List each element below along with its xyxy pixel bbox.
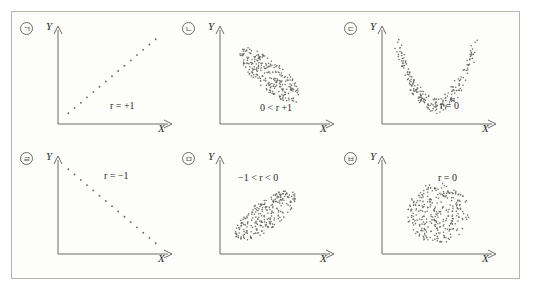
figure-frame: ㄱ Y X r = +1 ㄴ Y X 0 < r +1	[11, 11, 520, 279]
panel-4-x-label: X	[158, 252, 165, 264]
panel-1-axes	[54, 26, 172, 128]
panel-2-annotation: 0 < r +1	[260, 102, 292, 113]
panel-6: ㅂ Y X r = 0	[342, 146, 502, 270]
panel-3-plot	[342, 16, 502, 140]
panel-3: ㄷ Y X r = 0	[342, 16, 502, 140]
panel-5-y-label: Y	[208, 150, 214, 162]
panel-6-y-label: Y	[370, 150, 376, 162]
panel-1-x-label: X	[158, 122, 165, 134]
panel-6-plot	[342, 146, 502, 270]
panel-1-annotation: r = +1	[110, 100, 135, 111]
panel-2-plot	[180, 16, 340, 140]
panel-4-y-label: Y	[46, 150, 52, 162]
panel-2-y-label: Y	[208, 20, 214, 32]
panel-1-y-label: Y	[46, 20, 52, 32]
panel-5-plot	[180, 146, 340, 270]
panel-5-annotation: −1 < r < 0	[238, 172, 278, 183]
panel-3-annotation: r = 0	[440, 100, 459, 111]
panel-6-x-label: X	[482, 252, 489, 264]
panel-2-dots	[239, 47, 299, 103]
panel-1-plot	[18, 16, 178, 140]
panel-4-plot	[18, 146, 178, 270]
panel-4-annotation: r = −1	[104, 170, 129, 181]
panel-2-x-label: X	[320, 122, 327, 134]
panel-3-y-label: Y	[370, 20, 376, 32]
panel-6-dots	[407, 183, 469, 243]
panel-1: ㄱ Y X r = +1	[18, 16, 178, 140]
panel-5: ㅁ Y X −1 < r < 0	[180, 146, 340, 270]
panel-2: ㄴ Y X 0 < r +1	[180, 16, 340, 140]
panel-3-x-label: X	[482, 122, 489, 134]
panel-5-dots	[235, 190, 296, 240]
panel-3-dots	[394, 39, 478, 114]
panel-4: ㄹ Y X r = −1	[18, 146, 178, 270]
panel-5-x-label: X	[320, 252, 327, 264]
panel-6-axes	[378, 156, 496, 258]
panel-6-annotation: r = 0	[438, 172, 457, 183]
